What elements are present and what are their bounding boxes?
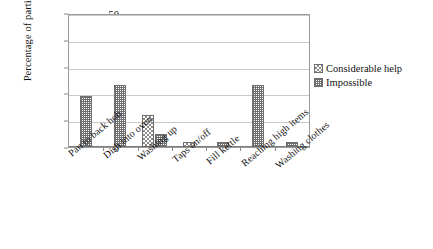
legend-label-1: Impossible	[326, 77, 372, 88]
legend-item-0: Considerable help	[314, 63, 402, 74]
legend-item-1: Impossible	[314, 77, 402, 88]
bar-group	[172, 15, 206, 147]
y-axis-title: Percentage of participants	[22, 0, 33, 101]
legend-swatch-0	[314, 64, 323, 73]
x-axis-labels: Pan to back hobDish into ovenWashing upT…	[68, 150, 310, 246]
legend-swatch-1	[314, 78, 323, 87]
bar-1-5	[252, 85, 264, 147]
chart-legend: Considerable helpImpossible	[314, 63, 402, 91]
bar-chart: Percentage of participants 01020304050 P…	[0, 0, 433, 249]
bar-group	[206, 15, 240, 147]
bar-group	[240, 15, 274, 147]
legend-label-0: Considerable help	[326, 63, 402, 74]
